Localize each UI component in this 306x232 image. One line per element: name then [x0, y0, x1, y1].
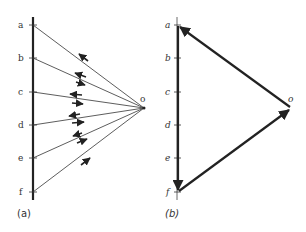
label-c: c	[165, 87, 170, 97]
force-arrows-a	[69, 54, 90, 165]
caption-a: (a)	[17, 208, 31, 219]
panel-a: a b c d e f o (a)	[17, 17, 146, 219]
label-e: e	[18, 153, 23, 163]
label-d: d	[18, 120, 24, 130]
point-o	[143, 107, 146, 110]
panel-b: a b c d e f o (b)	[165, 17, 294, 219]
force-triangle	[178, 26, 290, 191]
rays-a	[33, 25, 144, 192]
diagram-figure: a b c d e f o (a) a b c d	[0, 0, 306, 232]
label-e: e	[165, 153, 170, 163]
label-f: f	[165, 187, 171, 197]
vector-oa	[180, 27, 290, 107]
label-d: d	[165, 120, 171, 130]
caption-b: (b)	[165, 208, 179, 219]
label-b: b	[18, 53, 24, 63]
label-a: a	[165, 20, 170, 30]
vector-fo	[179, 110, 289, 191]
label-c: c	[18, 87, 23, 97]
label-f: f	[19, 187, 23, 197]
label-o: o	[140, 94, 145, 104]
label-b: b	[165, 53, 171, 63]
labels-b: a b c d e f o	[165, 20, 294, 197]
label-o: o	[288, 94, 294, 104]
labels-a: a b c d e f o	[18, 20, 145, 197]
label-a: a	[18, 20, 24, 30]
